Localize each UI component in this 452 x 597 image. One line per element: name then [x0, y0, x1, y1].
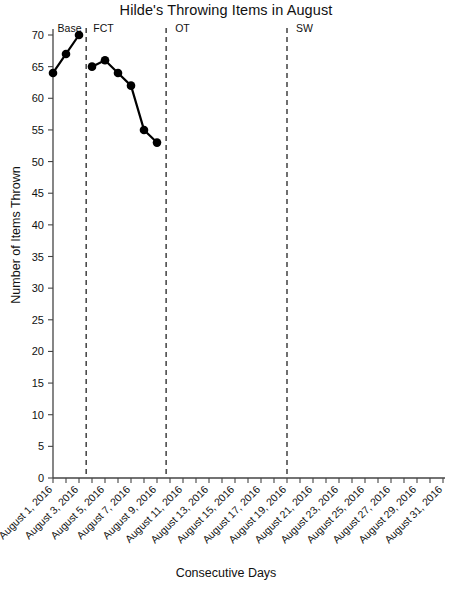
- y-tick-label: 40: [32, 219, 44, 231]
- data-point: [114, 69, 123, 78]
- data-point: [49, 69, 58, 78]
- y-tick-label: 35: [32, 251, 44, 263]
- y-tick-label: 55: [32, 124, 44, 136]
- phase-dividers: [86, 28, 287, 478]
- x-axis-tick-labels: August 1, 2016August 3, 2016August 5, 20…: [0, 483, 445, 546]
- x-axis-ticks: [53, 478, 443, 483]
- chart-container: Hilde's Throwing Items in August Number …: [0, 0, 452, 597]
- data-point: [62, 50, 71, 59]
- y-tick-label: 20: [32, 345, 44, 357]
- data-point: [88, 62, 97, 71]
- y-axis-ticks: 0510152025303540455055606570: [32, 29, 53, 484]
- y-tick-label: 50: [32, 156, 44, 168]
- y-tick-label: 0: [38, 472, 44, 484]
- y-tick-label: 5: [38, 440, 44, 452]
- y-tick-label: 10: [32, 409, 44, 421]
- data-series: [49, 31, 162, 147]
- phase-labels: BaseFCTOTSW: [58, 22, 314, 34]
- data-point: [153, 138, 162, 147]
- phase-label-ot: OT: [175, 22, 190, 34]
- y-tick-label: 70: [32, 29, 44, 41]
- y-tick-label: 45: [32, 187, 44, 199]
- data-point: [75, 31, 84, 40]
- y-tick-label: 30: [32, 282, 44, 294]
- y-tick-label: 65: [32, 61, 44, 73]
- plot-area: 0510152025303540455055606570 BaseFCTOTSW…: [0, 0, 452, 597]
- axis-lines: [53, 29, 445, 478]
- data-point: [127, 81, 136, 90]
- phase-label-sw: SW: [296, 22, 313, 34]
- data-point: [101, 56, 110, 65]
- y-tick-label: 15: [32, 377, 44, 389]
- y-tick-label: 25: [32, 314, 44, 326]
- y-tick-label: 60: [32, 92, 44, 104]
- phase-label-fct: FCT: [93, 22, 114, 34]
- data-point: [140, 126, 149, 135]
